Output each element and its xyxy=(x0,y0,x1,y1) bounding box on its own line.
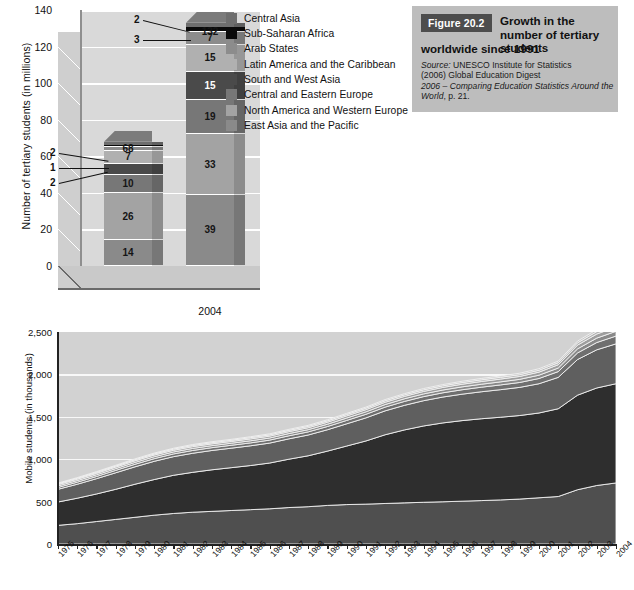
bar-segment-depth xyxy=(152,193,163,240)
callout-2004-sub-saharan: 3 xyxy=(134,34,140,45)
legend-item-6: North America and Western Europe xyxy=(226,104,416,116)
chart-floor xyxy=(58,266,260,288)
figure-number-tag: Figure 20.2 xyxy=(421,14,492,32)
bar-category-label: 2004 xyxy=(186,305,234,317)
chart-legend: Central AsiaSub-Saharan AfricaArab State… xyxy=(226,12,416,135)
top-chart-axis-diagonal xyxy=(58,266,81,289)
callout-1991-central-asia: 2 xyxy=(50,147,56,158)
bar-total-label: 68 xyxy=(104,143,152,154)
bottom-chart-y-tick: 2,500 xyxy=(28,327,52,338)
legend-item-2: Arab States xyxy=(226,43,416,55)
bottom-chart-y-tick: 1,500 xyxy=(28,411,52,422)
legend-item-4: South and West Asia xyxy=(226,74,416,86)
top-chart-y-tick: 120 xyxy=(34,41,52,53)
legend-swatch xyxy=(226,59,237,70)
legend-swatch xyxy=(226,89,237,100)
bar-segment-depth xyxy=(152,147,163,150)
callout-1991-sub-saharan: 1 xyxy=(50,162,56,173)
bar-segment-depth xyxy=(234,195,245,265)
bar-segment xyxy=(104,164,152,175)
top-chart-y-tick: 80 xyxy=(40,114,52,126)
top-chart-y-axis-title: Number of tertiary students (in millions… xyxy=(20,16,32,256)
bottom-chart-plot-area: 05001,0001,5002,0002,500 xyxy=(58,332,616,544)
bottom-chart-y-tick: 1,000 xyxy=(28,454,52,465)
legend-label: Arab States xyxy=(244,43,298,54)
top-chart-y-tick: 40 xyxy=(40,187,52,199)
top-chart-y-tick: 20 xyxy=(40,223,52,235)
mobile-students-chart: Mobile students (in thousands) 05001,000… xyxy=(0,318,626,590)
callout-2004-central-asia: 2 xyxy=(134,14,140,25)
legend-label: Latin America and the Caribbean xyxy=(244,59,396,70)
legend-swatch xyxy=(226,28,237,39)
figure-caption-box: Figure 20.2 Growth in the number of tert… xyxy=(412,6,618,112)
bottom-chart-y-tick: 2,000 xyxy=(28,369,52,380)
legend-item-7: East Asia and the Pacific xyxy=(226,120,416,132)
top-chart-y-tick: 100 xyxy=(34,77,52,89)
legend-item-0: Central Asia xyxy=(226,12,416,24)
bar-segment: 39 xyxy=(186,195,234,266)
top-chart-y-tick: 0 xyxy=(46,260,52,272)
legend-swatch xyxy=(226,120,237,131)
callout-leader-line xyxy=(143,40,191,41)
bar-segment: 14 xyxy=(104,240,152,266)
legend-label: Central and Eastern Europe xyxy=(244,89,373,100)
bar-segment-depth xyxy=(234,134,245,193)
bar-segment-depth xyxy=(152,151,163,163)
top-chart-y-tick: 140 xyxy=(34,4,52,16)
bar-segment: 33 xyxy=(186,134,234,194)
bar-segment: 10 xyxy=(104,175,152,193)
top-chart-x-axis-line xyxy=(58,288,260,290)
top-chart-y-axis-line xyxy=(80,10,82,266)
legend-swatch xyxy=(226,13,237,24)
legend-label: Sub-Saharan Africa xyxy=(244,28,334,39)
stacked-bar-1991: 7102614199168 xyxy=(104,142,152,266)
legend-item-1: Sub-Saharan Africa xyxy=(226,27,416,39)
legend-label: East Asia and the Pacific xyxy=(244,120,359,131)
bottom-chart-y-tick: 0 xyxy=(47,539,52,550)
bottom-chart-y-tick: 500 xyxy=(36,496,52,507)
stacked-area-svg xyxy=(58,332,616,544)
bottom-chart-y-axis-line xyxy=(57,332,59,544)
legend-label: Central Asia xyxy=(244,13,300,24)
bar-segment-depth xyxy=(152,145,163,146)
legend-label: South and West Asia xyxy=(244,74,340,85)
legend-label: North America and Western Europe xyxy=(244,105,408,116)
bar-segment: 26 xyxy=(104,193,152,241)
legend-swatch xyxy=(226,43,237,54)
bar-segment-depth xyxy=(152,164,163,174)
bar-segment-depth xyxy=(152,240,163,265)
callout-1991-arab-states: 2 xyxy=(50,177,56,188)
legend-item-5: Central and Eastern Europe xyxy=(226,89,416,101)
bottom-chart-x-label: 2004 xyxy=(614,538,634,558)
legend-swatch xyxy=(226,105,237,116)
figure-title-part2: worldwide since 1991 xyxy=(421,42,615,56)
bar-segment-depth xyxy=(152,175,163,192)
legend-swatch xyxy=(226,74,237,85)
legend-item-3: Latin America and the Caribbean xyxy=(226,58,416,70)
callout-leader-line xyxy=(59,168,109,169)
figure-source-text: Source: UNESCO Institute for Statistics(… xyxy=(421,60,615,102)
